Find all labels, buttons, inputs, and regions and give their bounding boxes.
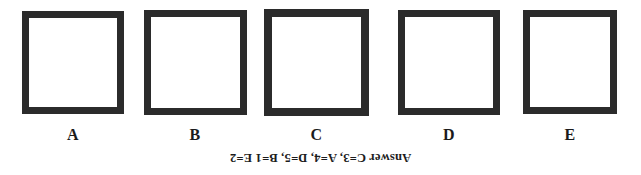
answer-box-e[interactable]: E (523, 0, 625, 122)
answer-box-a[interactable]: A (22, 0, 124, 122)
box-outline-c (264, 9, 369, 116)
box-label-a: A (22, 126, 124, 144)
box-outline-b (144, 10, 247, 115)
box-label-d: D (398, 126, 500, 144)
answer-box-c[interactable]: C (264, 0, 366, 122)
empty-box-row: A B C D E (0, 0, 641, 122)
box-outline-e (523, 10, 617, 114)
box-outline-a (22, 11, 124, 114)
box-outline-d (398, 10, 500, 115)
box-label-b: B (144, 126, 246, 144)
answer-box-d[interactable]: D (398, 0, 500, 122)
figure-page: A B C D E Answer C=3, A=4, D=5, B=1 E=2 (0, 0, 641, 175)
box-label-e: E (523, 126, 617, 144)
answer-key-text: Answer C=3, A=4, D=5, B=1 E=2 (0, 150, 641, 166)
answer-box-b[interactable]: B (144, 0, 246, 122)
box-label-c: C (264, 126, 369, 144)
